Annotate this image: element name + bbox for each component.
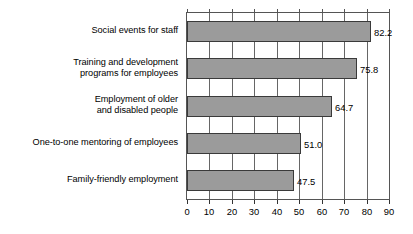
x-tick-label: 40 xyxy=(272,206,282,217)
x-tick-label: 60 xyxy=(317,206,327,217)
x-tick-label: 90 xyxy=(384,206,394,217)
category-label: Social events for staff xyxy=(0,25,178,36)
bar-value-label: 75.8 xyxy=(357,63,378,74)
bar-row: 64.7 xyxy=(187,96,389,117)
x-tick-label: 50 xyxy=(294,206,304,217)
x-tick-mark xyxy=(344,200,345,204)
bar-row: 47.5 xyxy=(187,170,389,191)
plot-area: 82.275.864.751.047.5 xyxy=(186,12,390,200)
bar[interactable] xyxy=(187,133,301,154)
category-label: Family-friendly employment xyxy=(0,174,178,185)
x-tick-label: 10 xyxy=(204,206,214,217)
x-tick-mark xyxy=(367,200,368,204)
x-tick-mark xyxy=(299,200,300,204)
bar[interactable] xyxy=(187,21,371,42)
x-tick-label: 80 xyxy=(362,206,372,217)
bar-value-label: 47.5 xyxy=(294,175,315,186)
bar-value-label: 51.0 xyxy=(301,138,322,149)
bar[interactable] xyxy=(187,96,332,117)
category-axis: Social events for staffTraining and deve… xyxy=(0,12,182,200)
x-tick-mark xyxy=(232,200,233,204)
x-tick-mark xyxy=(187,200,188,204)
x-tick-label: 30 xyxy=(249,206,259,217)
x-tick-label: 20 xyxy=(227,206,237,217)
bar-value-label: 82.2 xyxy=(371,26,392,37)
x-axis: 0102030405060708090 xyxy=(186,200,390,230)
bar-row: 51.0 xyxy=(187,133,389,154)
x-tick-mark xyxy=(389,200,390,204)
x-tick-label: 70 xyxy=(339,206,349,217)
bar-value-label: 64.7 xyxy=(332,101,353,112)
bar-row: 75.8 xyxy=(187,58,389,79)
category-label: One-to-one mentoring of employees xyxy=(0,137,178,148)
category-label: Employment of olderand disabled people xyxy=(0,94,178,116)
bar-row: 82.2 xyxy=(187,21,389,42)
bar[interactable] xyxy=(187,170,294,191)
bar-chart: Social events for staffTraining and deve… xyxy=(0,0,413,234)
bar[interactable] xyxy=(187,58,357,79)
x-tick-label: 0 xyxy=(184,206,189,217)
x-tick-mark xyxy=(277,200,278,204)
x-tick-mark xyxy=(322,200,323,204)
x-tick-mark xyxy=(209,200,210,204)
x-tick-mark xyxy=(254,200,255,204)
category-label: Training and developmentprograms for emp… xyxy=(0,57,178,79)
